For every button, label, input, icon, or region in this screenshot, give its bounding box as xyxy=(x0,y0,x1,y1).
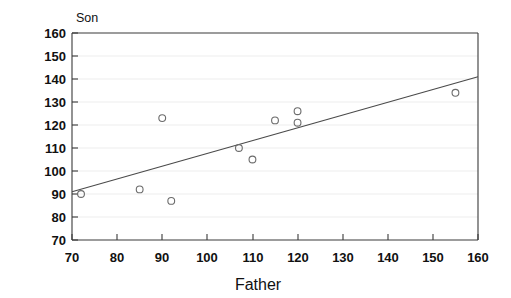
regression-line xyxy=(72,77,478,192)
x-tick-label: 80 xyxy=(110,250,124,265)
scatter-chart: 160 150 140 130 120 110 100 90 80 70 70 … xyxy=(0,0,511,298)
x-tick-label: 100 xyxy=(196,250,218,265)
x-axis-title: Father xyxy=(235,276,282,293)
y-tick-label: 110 xyxy=(45,141,66,156)
y-tick-label: 140 xyxy=(44,72,66,87)
data-point xyxy=(272,117,279,124)
x-axis-ticks xyxy=(72,234,478,240)
x-axis-tick-labels: 70 80 90 100 110 120 130 140 150 160 xyxy=(65,250,489,265)
y-axis-title: Son xyxy=(76,11,98,25)
x-tick-label: 150 xyxy=(422,250,444,265)
y-tick-label: 120 xyxy=(44,118,66,133)
x-tick-label: 160 xyxy=(467,250,489,265)
y-tick-label: 100 xyxy=(44,164,66,179)
x-tick-label: 110 xyxy=(243,250,264,265)
y-tick-label: 130 xyxy=(44,95,66,110)
y-tick-label: 80 xyxy=(52,210,66,225)
y-tick-label: 160 xyxy=(44,26,66,41)
x-tick-label: 90 xyxy=(155,250,169,265)
x-tick-label: 140 xyxy=(377,250,399,265)
data-point xyxy=(249,156,256,163)
data-point xyxy=(168,198,175,205)
y-axis-tick-labels: 160 150 140 130 120 110 100 90 80 70 xyxy=(44,26,66,248)
plot-canvas: 160 150 140 130 120 110 100 90 80 70 70 … xyxy=(0,0,511,298)
data-point xyxy=(159,115,166,122)
y-tick-label: 70 xyxy=(52,233,66,248)
data-point xyxy=(136,186,143,193)
y-tick-label: 150 xyxy=(44,49,66,64)
y-axis-ticks xyxy=(72,33,78,240)
x-tick-label: 130 xyxy=(332,250,354,265)
data-points xyxy=(78,89,459,204)
data-point xyxy=(452,89,459,96)
x-tick-label: 70 xyxy=(65,250,79,265)
x-tick-label: 120 xyxy=(287,250,309,265)
gridlines xyxy=(72,56,478,217)
plot-frame xyxy=(72,33,478,240)
y-tick-label: 90 xyxy=(52,187,66,202)
data-point xyxy=(294,108,301,115)
